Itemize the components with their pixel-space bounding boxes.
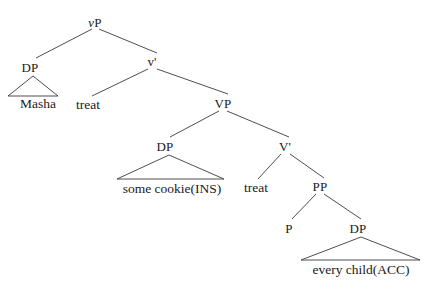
vbar-to-vp-lower [157,69,228,94]
vbar-to-treat [92,69,148,96]
leaf-some-cookie-ins: some cookie(INS) [123,182,222,196]
vbar-lower-to-pp [290,154,324,178]
every-child-triangle [301,237,420,260]
node-v-bar-lower: V' [279,140,291,153]
vp-to-dp-subject [36,29,92,58]
leaf-masha: Masha [20,97,56,111]
node-v-bar: v' [147,55,156,68]
node-dp-pp: DP [349,222,366,235]
leaf-treat-lower: treat [244,181,268,195]
node-vp: vP [88,16,101,29]
some-cookie-triangle [117,155,224,179]
node-pp: PP [313,180,328,193]
vp-lower-to-dp-object [170,111,219,137]
vp-to-vbar [99,29,157,53]
syntax-tree-figure: vP DP v' VP DP V' PP P DP Masha treat so… [0,0,428,290]
masha-triangle [8,76,58,96]
pp-to-p [292,194,316,219]
vp-lower-to-vbar-lower [227,111,289,137]
leaf-every-child-acc: every child(ACC) [312,263,409,277]
leaf-treat-upper: treat [76,98,100,112]
vbar-lower-to-treat [258,154,281,179]
node-dp-subject: DP [21,61,38,74]
tree-lines-layer [0,0,428,290]
node-vp-lower: VP [214,97,231,110]
italic-v-glyph: v [88,15,94,30]
node-p-head: P [285,222,292,235]
node-dp-object: DP [156,140,173,153]
pp-to-dp [324,194,361,219]
